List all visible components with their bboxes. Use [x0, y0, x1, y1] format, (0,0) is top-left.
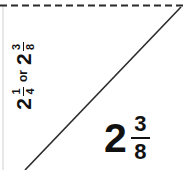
value-label: 2 3 8	[104, 113, 150, 163]
axis-label: 2 1 4 or 2 3 8	[5, 16, 41, 136]
value-label-whole: 2	[104, 118, 127, 159]
axis-label-first-denominator: 4	[25, 87, 36, 95]
value-label-fraction: 3 8	[131, 113, 150, 163]
axis-label-second-value: 2 3 8	[11, 42, 36, 65]
value-label-numerator: 3	[132, 113, 148, 135]
axis-label-first-fraction: 1 4	[11, 87, 36, 96]
value-label-mixed-number: 2 3 8	[104, 113, 150, 163]
math-figure: 2 1 4 or 2 3 8 2 3 8	[0, 0, 185, 170]
axis-label-first-numerator: 1	[11, 87, 22, 95]
axis-label-conjunction: or	[16, 70, 30, 82]
axis-label-first-value: 2 1 4	[11, 87, 36, 110]
value-label-denominator: 8	[132, 141, 148, 163]
diagonal-line	[25, 7, 181, 170]
axis-label-second-whole: 2	[13, 53, 34, 65]
axis-label-first-whole: 2	[13, 98, 34, 110]
axis-label-second-numerator: 3	[11, 43, 22, 51]
axis-label-second-fraction: 3 8	[11, 42, 36, 51]
axis-label-second-denominator: 8	[25, 43, 36, 51]
